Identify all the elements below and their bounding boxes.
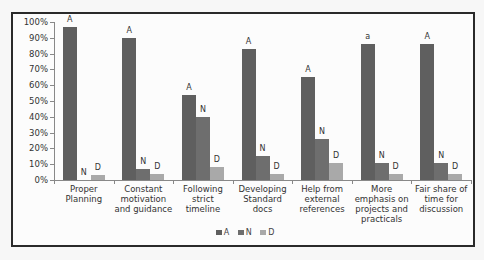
legend: A N D: [0, 228, 484, 237]
legend-swatch-d: [260, 230, 266, 235]
category-label: DevelopingStandarddocs: [233, 184, 293, 214]
y-tick: [50, 101, 54, 102]
bar-label: A: [417, 32, 437, 41]
y-tick: [50, 148, 54, 149]
y-tick-label: 80%: [12, 49, 48, 59]
bar-label: A: [60, 15, 80, 24]
bar-label: D: [147, 162, 167, 171]
y-axis: [54, 22, 55, 180]
category-label-line: references: [292, 204, 352, 214]
category-label: Constantmotivationand guidance: [113, 184, 173, 214]
category-label: Fair share oftime fordiscussion: [411, 184, 471, 214]
category-label-line: and guidance: [113, 204, 173, 214]
category-label-line: Proper: [54, 184, 114, 194]
bar-d: [210, 167, 224, 180]
category-label-line: timeline: [173, 204, 233, 214]
bar-d: [270, 174, 284, 180]
bar-label: N: [253, 144, 273, 153]
category-label-line: Standard: [233, 194, 293, 204]
category-label-line: discussion: [411, 204, 471, 214]
legend-label-a: A: [224, 228, 229, 237]
category-label: ProperPlanning: [54, 184, 114, 204]
bar-label: N: [431, 151, 451, 160]
bar-n: [196, 117, 210, 180]
bar-label: D: [386, 162, 406, 171]
legend-label-d: D: [268, 228, 274, 237]
y-tick: [50, 85, 54, 86]
bar-label: D: [445, 162, 465, 171]
y-tick: [50, 38, 54, 39]
category-label-line: strict: [173, 194, 233, 204]
bar-label: A: [119, 26, 139, 35]
y-tick-label: 100%: [12, 17, 48, 27]
bar-label: N: [372, 151, 392, 160]
category-label-line: More: [352, 184, 412, 194]
category-label-line: practicals: [352, 214, 412, 224]
category-label-line: emphasis on: [352, 194, 412, 204]
category-label-line: external: [292, 194, 352, 204]
bar-label: D: [326, 151, 346, 160]
bar-d: [389, 174, 403, 180]
category-label-line: Following: [173, 184, 233, 194]
category-label: Moreemphasis onprojects andpracticals: [352, 184, 412, 224]
bar-label: a: [358, 32, 378, 41]
bar-label: D: [207, 155, 227, 164]
y-tick-label: 20%: [12, 143, 48, 153]
bar-label: D: [88, 163, 108, 172]
bar-label: A: [239, 37, 259, 46]
y-tick-label: 50%: [12, 96, 48, 106]
bar-d: [448, 174, 462, 180]
category-label: Followingstricttimeline: [173, 184, 233, 214]
y-tick-label: 90%: [12, 33, 48, 43]
bar-d: [91, 175, 105, 180]
legend-swatch-a: [216, 230, 222, 235]
bar-label: N: [193, 105, 213, 114]
y-tick-label: 40%: [12, 112, 48, 122]
x-axis: [54, 180, 471, 181]
y-tick-label: 60%: [12, 80, 48, 90]
category-label-line: Developing: [233, 184, 293, 194]
category-label-line: Help from: [292, 184, 352, 194]
y-tick-label: 0%: [12, 175, 48, 185]
bar-label: D: [267, 162, 287, 171]
category-label-line: projects and: [352, 204, 412, 214]
bar-label: A: [298, 65, 318, 74]
y-tick: [50, 133, 54, 134]
bar-a: [63, 27, 77, 180]
category-label: Help fromexternalreferences: [292, 184, 352, 214]
legend-swatch-n: [238, 230, 244, 235]
category-label-line: docs: [233, 204, 293, 214]
category-label-line: time for: [411, 194, 471, 204]
bar-d: [329, 163, 343, 180]
y-tick: [50, 69, 54, 70]
legend-label-n: N: [246, 228, 252, 237]
y-tick-label: 70%: [12, 64, 48, 74]
y-tick: [50, 164, 54, 165]
y-tick-label: 10%: [12, 159, 48, 169]
bar-d: [150, 174, 164, 180]
category-label-line: motivation: [113, 194, 173, 204]
category-label-line: Constant: [113, 184, 173, 194]
bar-label: A: [179, 83, 199, 92]
bar-a: [242, 49, 256, 180]
y-tick-label: 30%: [12, 128, 48, 138]
y-tick: [50, 117, 54, 118]
category-label-line: Fair share of: [411, 184, 471, 194]
y-tick: [50, 54, 54, 55]
y-tick: [50, 22, 54, 23]
bar-label: N: [312, 127, 332, 136]
category-label-line: Planning: [54, 194, 114, 204]
